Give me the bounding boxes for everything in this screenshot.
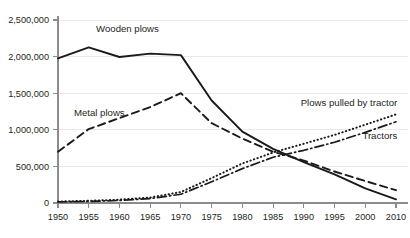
series-label-tractors: Tractors bbox=[362, 130, 397, 141]
series-label-metal-plows: Metal plows bbox=[74, 107, 125, 118]
y-axis-tick-label: 1,500,000 bbox=[8, 89, 49, 99]
data-series-group bbox=[58, 47, 396, 201]
y-axis-tick-label: 1,000,000 bbox=[8, 125, 49, 135]
x-axis-tick-labels: 1950195519601965197019751980198519901995… bbox=[48, 212, 406, 222]
series-label-wooden-plows: Wooden plows bbox=[96, 23, 159, 34]
y-axis-tick-label: 500,000 bbox=[16, 162, 49, 172]
series-labels-group: Wooden plowsMetal plowsPlows pulled by t… bbox=[74, 23, 398, 140]
x-axis-tick-label: 1980 bbox=[232, 212, 252, 222]
x-axis-tick-label: 1960 bbox=[109, 212, 129, 222]
y-axis-tick-label: 2,000,000 bbox=[8, 52, 49, 62]
x-axis-tick-label: 1950 bbox=[48, 212, 68, 222]
gridlines-group bbox=[58, 20, 408, 166]
x-axis-tick-label: 1985 bbox=[263, 212, 283, 222]
series-label-plows-pulled-by-tractor: Plows pulled by tractor bbox=[301, 97, 398, 108]
x-axis-tick-label: 1970 bbox=[171, 212, 191, 222]
x-axis-tick-label: 2010 bbox=[386, 212, 406, 222]
series-line-plows-pulled-by-tractor bbox=[58, 114, 396, 201]
x-axis-tick-label: 1995 bbox=[324, 212, 344, 222]
x-axis-tick-label: 1965 bbox=[140, 212, 160, 222]
y-axis-tick-label: 2,500,000 bbox=[8, 15, 49, 25]
line-chart: 0500,0001,000,0001,500,0002,000,0002,500… bbox=[0, 0, 410, 238]
x-axis-tick-label: 1975 bbox=[201, 212, 221, 222]
series-line-tractors bbox=[58, 122, 396, 202]
series-line-wooden-plows bbox=[58, 47, 396, 199]
x-axis-tick-label: 1990 bbox=[294, 212, 314, 222]
x-axis-tick-label: 2000 bbox=[355, 212, 375, 222]
y-axis-tick-labels: 0500,0001,000,0001,500,0002,000,0002,500… bbox=[8, 15, 49, 208]
chart-canvas: 0500,0001,000,0001,500,0002,000,0002,500… bbox=[0, 0, 410, 238]
x-axis-tick-label: 1955 bbox=[79, 212, 99, 222]
y-axis-tick-label: 0 bbox=[44, 198, 49, 208]
